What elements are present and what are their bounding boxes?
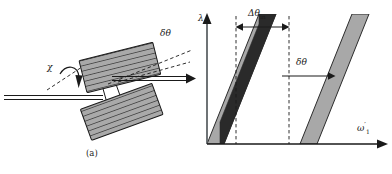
panel-a-svg — [0, 0, 196, 174]
delta-theta-in-label: Δθin — [248, 8, 266, 20]
x-axis — [207, 140, 388, 149]
delta-theta-label-a: δθ — [160, 28, 171, 38]
caption-a: (a) — [86, 148, 98, 158]
panel-a-diagram: χ δθ (a) — [0, 0, 196, 174]
x-axis-label: ω′1 — [357, 121, 370, 135]
band-1-dark — [220, 14, 276, 144]
panel-b-svg — [196, 0, 392, 174]
delta-theta-in-label-base: Δθ — [248, 8, 260, 18]
chi-label: χ — [47, 62, 52, 72]
y-axis — [203, 13, 212, 144]
x-axis-label-sub: 1 — [366, 128, 370, 135]
y-axis-label: λ — [198, 13, 204, 23]
figure-container: χ δθ (a) — [0, 0, 392, 174]
panel-b-chart: λ ω′1 Δθin δθ (b) — [196, 0, 392, 174]
delta-theta-label-b: δθ — [296, 57, 307, 67]
lower-crystal-block — [80, 83, 163, 140]
incoming-beam — [4, 96, 103, 100]
delta-theta-in-label-sub: in — [260, 13, 266, 20]
